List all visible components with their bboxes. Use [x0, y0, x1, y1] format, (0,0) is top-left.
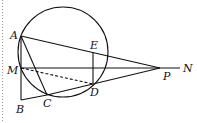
label-M: M: [6, 64, 19, 77]
label-D: D: [89, 86, 99, 99]
dashed-segment-MD: [21, 68, 93, 84]
label-N: N: [182, 62, 193, 75]
label-P: P: [162, 70, 171, 83]
label-A: A: [9, 29, 18, 42]
label-C: C: [43, 97, 52, 110]
label-E: E: [89, 39, 98, 52]
geometry-diagram: A M B C D E P N: [0, 0, 197, 123]
label-B: B: [15, 103, 24, 116]
